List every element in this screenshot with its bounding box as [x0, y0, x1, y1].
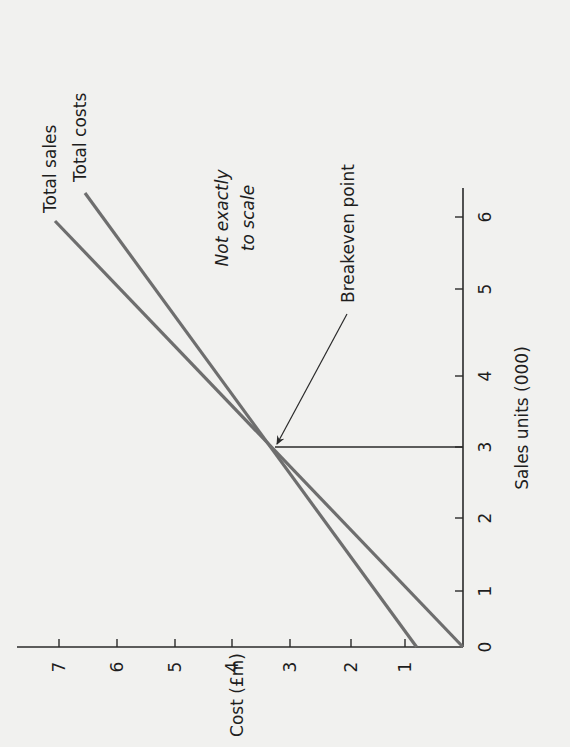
y-tick-label: 6 — [107, 662, 127, 673]
breakeven-arrow — [277, 314, 347, 444]
total-costs-label: Total costs — [70, 93, 90, 183]
breakeven-chart: 01234561234567Sales units (000)Cost (£m)… — [0, 0, 570, 747]
breakeven-label: Breakeven point — [338, 164, 358, 303]
x-tick-label: 5 — [475, 284, 495, 295]
scale-note-line-1: Not exactly — [212, 169, 232, 267]
y-tick-label: 5 — [165, 662, 185, 673]
x-tick-label: 0 — [475, 642, 495, 653]
total-sales-label: Total sales — [40, 124, 60, 214]
y-tick-label: 1 — [395, 662, 415, 673]
chart-canvas: 01234561234567Sales units (000)Cost (£m)… — [0, 0, 570, 747]
x-tick-label: 2 — [475, 513, 495, 524]
y-tick-label: 3 — [280, 662, 300, 673]
x-axis-title: Sales units (000) — [512, 346, 532, 490]
x-tick-label: 6 — [475, 212, 495, 223]
x-tick-label: 1 — [475, 586, 495, 597]
plot-area: 01234561234567Sales units (000)Cost (£m)… — [17, 93, 532, 737]
y-axis-title: Cost (£m) — [227, 653, 247, 737]
y-tick-label: 2 — [341, 662, 361, 673]
y-tick-label: 7 — [49, 662, 69, 673]
scale-note-line-2: to scale — [238, 185, 258, 251]
x-tick-label: 3 — [475, 442, 495, 453]
total-costs-line — [85, 193, 417, 647]
x-tick-label: 4 — [475, 371, 495, 382]
total-sales-line — [55, 221, 463, 647]
